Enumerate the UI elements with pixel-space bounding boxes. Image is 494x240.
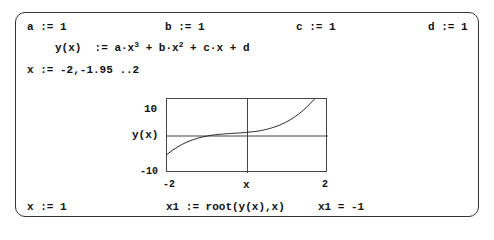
- def-a[interactable]: a := 1: [27, 21, 67, 33]
- function-definition[interactable]: y(x) := a·x3 + b·x2 + c·x + d: [55, 42, 249, 54]
- plot-svg: [167, 99, 328, 173]
- term-a: a·x: [114, 42, 134, 54]
- y-axis-label: y(x): [132, 129, 158, 141]
- plot-region[interactable]: [166, 98, 327, 172]
- term-b: + b·x: [139, 42, 179, 54]
- def-d[interactable]: d := 1: [428, 21, 468, 33]
- def-b[interactable]: b := 1: [165, 21, 205, 33]
- function-curve: [167, 99, 314, 155]
- range-definition[interactable]: x := -2,-1.95 ..2: [27, 64, 139, 76]
- guess-definition[interactable]: x := 1: [27, 201, 67, 213]
- x-min-label[interactable]: -2: [163, 179, 175, 190]
- assign-op: :=: [95, 42, 108, 54]
- term-cd: + c·x + d: [183, 42, 249, 54]
- x-axis-label: x: [243, 179, 250, 191]
- root-definition[interactable]: x1 := root(y(x),x): [166, 201, 285, 213]
- y-max-label: 10: [144, 103, 157, 115]
- root-result[interactable]: x1 = -1: [318, 201, 364, 213]
- def-c[interactable]: c := 1: [296, 21, 336, 33]
- function-lhs: y(x): [55, 42, 81, 54]
- x-max-label[interactable]: 2: [322, 179, 328, 190]
- y-min-label[interactable]: -10: [140, 166, 158, 177]
